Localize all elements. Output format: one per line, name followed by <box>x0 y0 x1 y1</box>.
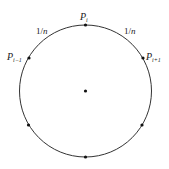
point-p-i <box>84 23 87 26</box>
label-p-i-1: Pi−1 <box>6 51 22 63</box>
point-lower-left <box>27 123 30 126</box>
points-layer <box>27 23 145 158</box>
point-p-i-1 <box>27 56 30 59</box>
circle-diagram: PiPi+1Pi−1 1/n1/n <box>0 0 169 169</box>
center-point <box>84 89 87 92</box>
labels-layer: PiPi+1Pi−1 <box>6 11 161 63</box>
arc-length-label-2: 1/n <box>124 26 136 36</box>
label-p-i: Pi <box>79 11 88 23</box>
arc-length-label-1: 1/n <box>36 26 48 36</box>
point-p-i-1 <box>141 56 144 59</box>
label-p-i-1: Pi+1 <box>145 51 161 63</box>
point-bottom <box>84 155 87 158</box>
point-lower-right <box>140 123 143 126</box>
